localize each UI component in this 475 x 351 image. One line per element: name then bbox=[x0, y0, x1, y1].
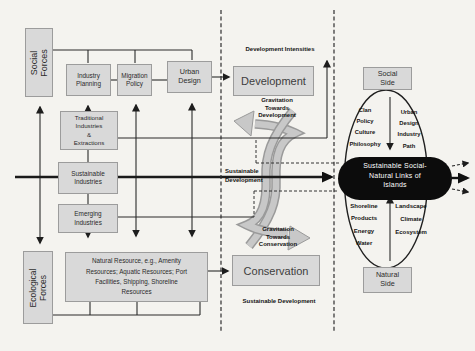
development-box: Development bbox=[233, 66, 314, 96]
natural-left-items: Shoreline Products Energy Water bbox=[341, 200, 387, 250]
conservation-label: Conservation bbox=[244, 265, 309, 277]
natural-resource-box: Natural Resource, e.g., Amenity Resource… bbox=[65, 252, 208, 302]
social-right-items: Urban Design Industry Path bbox=[389, 107, 429, 152]
sustainable-industries-label: Sustainable Industries bbox=[71, 170, 104, 186]
gravitation-towards-conservation-label: Gravitation Towards Conservation bbox=[246, 226, 310, 249]
sustainable-development-mid-label: Sustainable Development bbox=[222, 167, 275, 185]
natural-side-box: Natural Side bbox=[363, 267, 412, 293]
social-side-box: Social Side bbox=[363, 67, 412, 90]
social-left-items: Clan Policy Culture Philosophy bbox=[343, 105, 387, 150]
migration-policy-label: Migration Policy bbox=[121, 72, 147, 88]
links-hub-label: Sustainable Social- Natural Links of Isl… bbox=[338, 161, 452, 190]
social-forces-label: Social Forces bbox=[29, 49, 49, 77]
urban-design-label: Urban Design bbox=[178, 68, 200, 85]
natural-resource-label: Natural Resource, e.g., Amenity Resource… bbox=[86, 256, 187, 298]
conservation-box: Conservation bbox=[232, 255, 320, 286]
sustainable-development-footer-label: Sustainable Development bbox=[233, 298, 325, 306]
hub-output-arrows bbox=[450, 163, 468, 192]
ecological-forces-label: Ecological Forces bbox=[28, 268, 48, 307]
natural-side-label: Natural Side bbox=[376, 271, 399, 289]
traditional-industries-box: Traditional Industries & Extractions bbox=[60, 111, 118, 150]
hub-output-dashed-top bbox=[452, 163, 468, 166]
gravitation-towards-development-label: Gravitation Towards Development bbox=[246, 97, 308, 120]
migration-policy-box: Migration Policy bbox=[117, 64, 152, 96]
emerging-industries-box: Emerging Industries bbox=[58, 204, 118, 233]
sustainable-industries-box: Sustainable Industries bbox=[58, 162, 118, 194]
industry-planning-box: Industry Planning bbox=[66, 64, 111, 96]
urban-design-box: Urban Design bbox=[167, 61, 212, 93]
diagram-canvas: Social Forces Industry Planning Migratio… bbox=[0, 0, 475, 351]
industry-planning-label: Industry Planning bbox=[76, 72, 101, 88]
traditional-industries-label: Traditional Industries & Extractions bbox=[74, 114, 105, 148]
emerging-industries-label: Emerging Industries bbox=[74, 210, 102, 226]
natural-right-items: Landscape Climate Ecosystem bbox=[389, 200, 433, 240]
social-side-label: Social Side bbox=[378, 70, 398, 88]
hub-output-dashed-bottom bbox=[452, 189, 468, 192]
social-forces-box: Social Forces bbox=[25, 28, 53, 97]
development-intensities-label: Development Intensities bbox=[238, 46, 322, 54]
ecological-forces-box: Ecological Forces bbox=[23, 251, 53, 324]
development-label: Development bbox=[241, 75, 306, 87]
